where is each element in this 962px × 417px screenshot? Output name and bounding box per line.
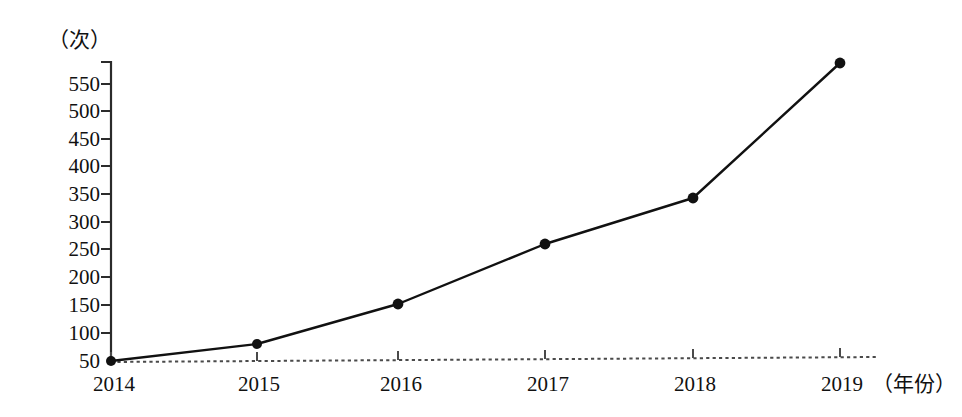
x-tick-label-2014: 2014 (93, 374, 135, 395)
line-chart: （次） 550 500 450 400 350 300 250 200 150 … (0, 0, 962, 417)
x-tick-label-2015: 2015 (238, 374, 280, 395)
x-axis-tick-labels: 2014 2015 2016 2017 2018 2019 (0, 0, 962, 417)
x-tick-label-2019: 2019 (821, 374, 863, 395)
x-tick-label-2017: 2017 (527, 374, 569, 395)
x-tick-label-2016: 2016 (380, 374, 422, 395)
x-tick-label-2018: 2018 (674, 374, 716, 395)
x-axis-unit-label: （年份） (872, 374, 956, 395)
